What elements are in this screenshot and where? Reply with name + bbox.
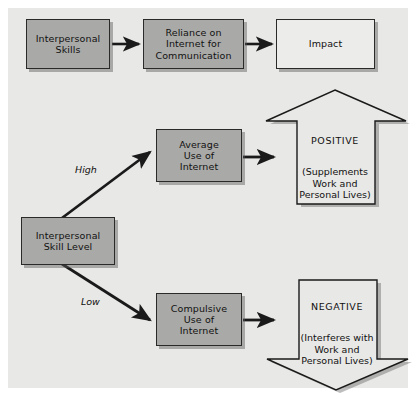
edge-label-low: Low bbox=[81, 296, 100, 307]
outcome-negative-heading: NEGATIVE bbox=[281, 301, 393, 312]
outcome-positive-heading: POSITIVE bbox=[280, 135, 390, 146]
node-impact[interactable]: Impact bbox=[276, 19, 375, 69]
node-impact-label: Impact bbox=[309, 38, 342, 49]
edge-label-high: High bbox=[75, 164, 97, 175]
node-reliance-label: Reliance on Internet for Communication bbox=[155, 27, 231, 61]
arrow-skilllevel-to-average bbox=[62, 152, 150, 218]
outcome-positive-text: POSITIVE (Supplements Work and Personal … bbox=[280, 124, 390, 212]
node-skill-level-label: Interpersonal Skill Level bbox=[36, 230, 101, 252]
node-compulsive-use-label: Compulsive Use of Internet bbox=[171, 303, 227, 337]
node-average-use-label: Average Use of Internet bbox=[179, 139, 219, 173]
outcome-positive-detail: (Supplements Work and Personal Lives) bbox=[280, 166, 390, 200]
outcome-negative-text: NEGATIVE (Interferes with Work and Perso… bbox=[281, 290, 393, 378]
node-interpersonal-skills-label: Interpersonal Skills bbox=[36, 33, 101, 55]
outcome-negative-detail: (Interferes with Work and Personal Lives… bbox=[281, 332, 393, 366]
node-interpersonal-skills[interactable]: Interpersonal Skills bbox=[26, 19, 110, 69]
arrow-skilllevel-to-compulsive bbox=[62, 264, 150, 320]
node-skill-level[interactable]: Interpersonal Skill Level bbox=[21, 217, 115, 265]
node-average-use[interactable]: Average Use of Internet bbox=[156, 129, 242, 182]
node-compulsive-use[interactable]: Compulsive Use of Internet bbox=[156, 293, 242, 346]
diagram-figure: Interpersonal Skills Reliance on Interne… bbox=[0, 0, 420, 401]
node-reliance[interactable]: Reliance on Internet for Communication bbox=[143, 19, 244, 69]
